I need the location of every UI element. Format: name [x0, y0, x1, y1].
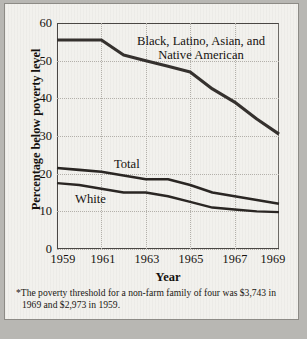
figure-frame: Percentage below poverty level 0 10 20 3… [4, 3, 299, 320]
series-label-minority-line1: Black, Latino, Asian, and [137, 34, 265, 48]
series-label-minority: Black, Latino, Asian, and Native America… [131, 35, 271, 62]
ytick-label-30: 30 [40, 129, 53, 144]
xtick-label-1961: 1961 [90, 252, 115, 267]
xtick-label-1965: 1965 [178, 252, 203, 267]
series-label-minority-line2: Native American [158, 48, 244, 62]
xtick-label-1959: 1959 [50, 252, 75, 267]
chart-area: Percentage below poverty level 0 10 20 3… [5, 4, 300, 321]
footnote-line1: *The poverty threshold for a non-farm fa… [16, 287, 266, 298]
ytick-label-10: 10 [40, 204, 53, 219]
gridline-y-0 [57, 249, 279, 250]
ytick-label-20: 20 [40, 166, 53, 181]
series-label-total: Total [114, 158, 140, 172]
ytick-label-40: 40 [40, 91, 53, 106]
xtick-label-1963: 1963 [134, 252, 159, 267]
xtick-label-1967: 1967 [222, 252, 247, 267]
footnote: *The poverty threshold for a non-farm fa… [16, 287, 290, 312]
series-label-white: White [75, 193, 106, 207]
ytick-label-60: 60 [40, 16, 53, 31]
ytick-label-50: 50 [40, 53, 53, 68]
xtick-label-1969: 1969 [260, 252, 285, 267]
x-axis-title: Year [57, 270, 279, 285]
plot-area: 0 10 20 30 40 50 60 1959 1961 1963 1965 … [57, 23, 279, 249]
